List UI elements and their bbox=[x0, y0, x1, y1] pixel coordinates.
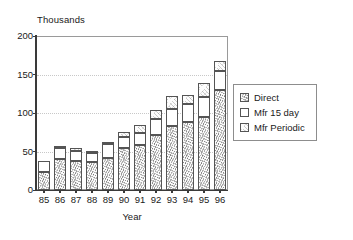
bar-segment bbox=[86, 153, 98, 162]
bar-column bbox=[118, 36, 130, 190]
x-tick-mark bbox=[123, 190, 124, 193]
bar-segment bbox=[102, 158, 114, 190]
bar-segment bbox=[102, 142, 114, 144]
bar-segment bbox=[166, 96, 178, 109]
bars-layer bbox=[36, 36, 228, 190]
x-tick-mark bbox=[59, 190, 60, 193]
bar-column bbox=[38, 36, 50, 190]
bar-segment bbox=[134, 125, 146, 133]
bar-column bbox=[70, 36, 82, 190]
bar-segment bbox=[134, 133, 146, 145]
bar-segment bbox=[166, 126, 178, 190]
x-tick-mark bbox=[219, 190, 220, 193]
bar-segment bbox=[182, 104, 194, 122]
bar-segment bbox=[198, 97, 210, 117]
x-tick-mark bbox=[203, 190, 204, 193]
bar-segment bbox=[214, 90, 226, 190]
bar-column bbox=[102, 36, 114, 190]
bar-column bbox=[214, 36, 226, 190]
x-tick-mark bbox=[43, 190, 44, 193]
legend-item: Direct bbox=[240, 90, 311, 105]
bar-segment bbox=[38, 172, 50, 190]
bar-segment bbox=[134, 145, 146, 190]
bar-column bbox=[182, 36, 194, 190]
x-tick-mark bbox=[171, 190, 172, 193]
bar-segment bbox=[54, 159, 66, 190]
bar-segment bbox=[70, 148, 82, 150]
bar-column bbox=[134, 36, 146, 190]
bar-segment bbox=[118, 132, 130, 137]
bar-column bbox=[150, 36, 162, 190]
bar-segment bbox=[214, 71, 226, 89]
y-tick-label: 200 bbox=[3, 31, 33, 41]
bar-segment bbox=[182, 95, 194, 103]
legend-label: Mfr Periodic bbox=[254, 123, 305, 133]
bar-segment bbox=[70, 161, 82, 190]
y-tick-label: 50 bbox=[3, 147, 33, 157]
y-tick-label: 100 bbox=[3, 108, 33, 118]
x-tick-mark bbox=[75, 190, 76, 193]
legend-item: Mfr 15 day bbox=[240, 105, 311, 120]
bar-segment bbox=[198, 83, 210, 97]
bar-segment bbox=[70, 151, 82, 161]
bar-segment bbox=[166, 109, 178, 126]
y-tick-label: 150 bbox=[3, 70, 33, 80]
stacked-bar-chart: Thousands 050100150200 85868788899091929… bbox=[0, 0, 353, 240]
bar-segment bbox=[150, 110, 162, 119]
bar-column bbox=[166, 36, 178, 190]
legend-swatch bbox=[240, 108, 249, 117]
bar-segment bbox=[38, 161, 50, 172]
legend-label: Mfr 15 day bbox=[254, 108, 299, 118]
x-tick-mark bbox=[107, 190, 108, 193]
x-tick-label: 96 bbox=[210, 195, 230, 205]
legend-label: Direct bbox=[254, 93, 279, 103]
bar-column bbox=[54, 36, 66, 190]
bar-segment bbox=[182, 122, 194, 190]
bar-segment bbox=[214, 61, 226, 72]
bar-segment bbox=[150, 119, 162, 134]
legend: DirectMfr 15 dayMfr Periodic bbox=[233, 84, 317, 141]
x-tick-mark bbox=[91, 190, 92, 193]
bar-segment bbox=[118, 137, 130, 148]
y-axis-title: Thousands bbox=[37, 14, 85, 25]
bar-segment bbox=[86, 151, 98, 153]
legend-swatch bbox=[240, 93, 249, 102]
bar-segment bbox=[54, 146, 66, 148]
bar-column bbox=[86, 36, 98, 190]
bar-segment bbox=[118, 148, 130, 190]
y-tick-label: 0 bbox=[3, 185, 33, 195]
x-tick-mark bbox=[139, 190, 140, 193]
bar-segment bbox=[54, 148, 66, 159]
bar-segment bbox=[102, 144, 114, 158]
bar-segment bbox=[150, 135, 162, 190]
bar-column bbox=[198, 36, 210, 190]
x-tick-mark bbox=[187, 190, 188, 193]
legend-swatch bbox=[240, 123, 249, 132]
legend-item: Mfr Periodic bbox=[240, 120, 311, 135]
bar-segment bbox=[86, 162, 98, 190]
x-axis-title: Year bbox=[36, 211, 228, 222]
x-tick-mark bbox=[155, 190, 156, 193]
bar-segment bbox=[198, 117, 210, 190]
